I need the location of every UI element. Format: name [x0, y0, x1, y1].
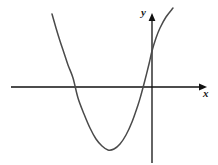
parabola-figure: y x: [0, 0, 218, 165]
coordinate-plot-svg: [0, 0, 218, 165]
x-axis-label: x: [203, 88, 209, 99]
y-axis-arrow-icon: [149, 13, 156, 21]
parabola-curve: [52, 8, 173, 150]
y-axis-label: y: [141, 7, 146, 18]
